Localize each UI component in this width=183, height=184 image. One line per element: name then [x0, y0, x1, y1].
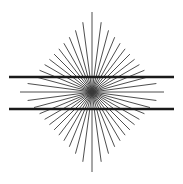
convergence-center-point [90, 90, 93, 93]
illusion-canvas [0, 0, 183, 184]
hering-illusion-figure [0, 0, 183, 184]
